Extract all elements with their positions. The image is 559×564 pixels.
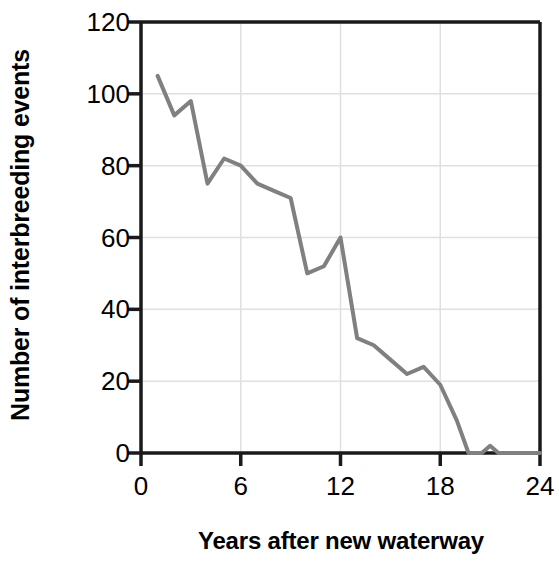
y-tick-label: 40 (66, 294, 130, 325)
x-tick-label: 24 (510, 471, 559, 502)
x-tick-label: 0 (111, 471, 171, 502)
y-axis-tick-labels: 020406080100120 (44, 0, 130, 520)
x-axis-title: Years after new waterway (141, 527, 541, 555)
y-tick-label: 0 (66, 438, 130, 469)
x-tick-label: 6 (211, 471, 271, 502)
x-tick-label: 12 (311, 471, 371, 502)
x-axis-tick-labels: 06121824 (0, 471, 552, 511)
y-tick-label: 80 (66, 150, 130, 181)
y-tick-label: 120 (66, 7, 130, 38)
y-tick-label: 20 (66, 366, 130, 397)
y-tick-label: 60 (66, 222, 130, 253)
x-tick-label: 18 (410, 471, 470, 502)
y-tick-label: 100 (66, 78, 130, 109)
